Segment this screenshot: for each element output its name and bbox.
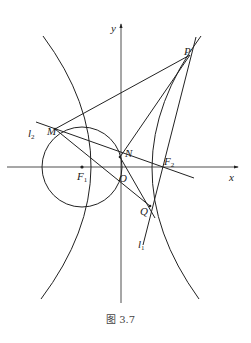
- figure-caption: 图 3.7: [106, 314, 135, 325]
- focus-f1-label: F1: [76, 170, 88, 184]
- segment-mq: [55, 129, 150, 206]
- point-n: [119, 156, 122, 159]
- point-m-label: M: [46, 125, 57, 137]
- point-n-label: N: [124, 147, 133, 159]
- line-l2: [36, 122, 194, 178]
- segment-pn: [120, 55, 190, 157]
- origin-label: O: [119, 172, 127, 184]
- geometry-diagram: y x O P M N Q F1 F2 l2 l1 图 3.7: [0, 0, 251, 343]
- x-axis-label: x: [228, 171, 234, 183]
- point-p-label: P: [183, 45, 191, 57]
- y-axis-label: y: [110, 22, 116, 34]
- segment-nq: [120, 157, 155, 218]
- line-l1: [143, 37, 196, 245]
- point-q: [149, 205, 152, 208]
- point-q-label: Q: [140, 205, 148, 217]
- focus-f2-label: F2: [163, 155, 175, 169]
- point-f1: [80, 165, 83, 168]
- figure-canvas: y x O P M N Q F1 F2 l2 l1 图 3.7: [0, 0, 251, 343]
- line-l2-label: l2: [28, 127, 35, 141]
